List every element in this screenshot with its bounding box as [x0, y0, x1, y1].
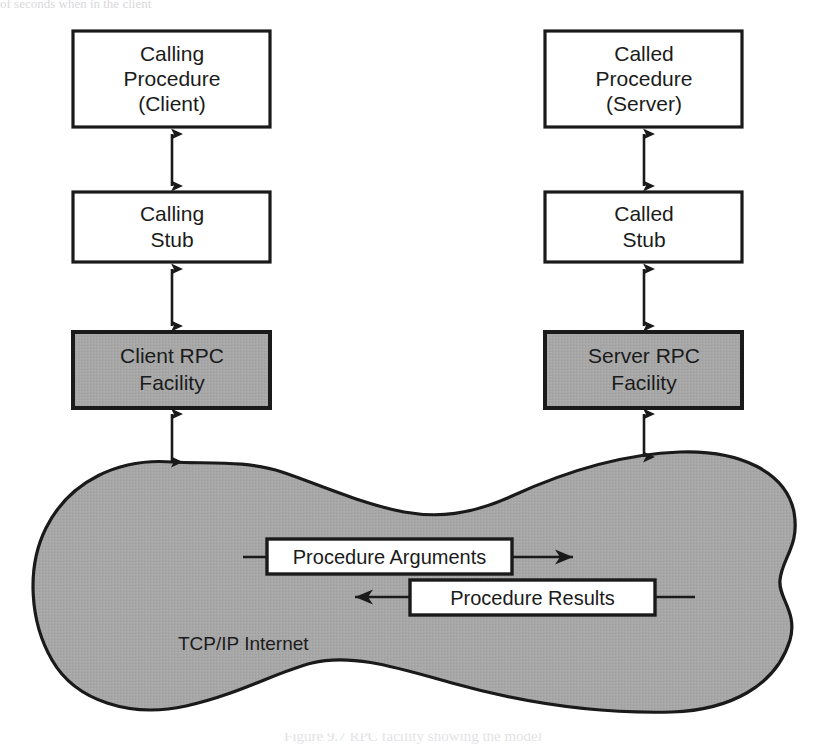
box-label-line: Stub	[150, 228, 193, 251]
message-label: Procedure Results	[450, 587, 615, 609]
box-calling-procedure[interactable]: Calling Procedure (Client)	[73, 31, 270, 127]
box-label-line: Client RPC	[120, 344, 224, 367]
box-label-line: (Client)	[138, 92, 206, 115]
box-label-line: Procedure	[124, 67, 221, 90]
box-label-line: Calling	[140, 202, 204, 225]
box-calling-stub[interactable]: Calling Stub	[73, 192, 270, 262]
box-label-line: Calling	[140, 42, 204, 65]
box-called-stub[interactable]: Called Stub	[545, 192, 742, 262]
server-column: Called Procedure (Server) Called Stub Se…	[545, 31, 742, 457]
box-label-line: Stub	[622, 228, 665, 251]
network-label: TCP/IP Internet	[178, 633, 309, 654]
box-server-rpc-facility[interactable]: Server RPC Facility	[545, 332, 742, 408]
box-called-procedure[interactable]: Called Procedure (Server)	[545, 31, 742, 127]
rpc-diagram: TCP/IP Internet Calling Procedure (Clien…	[0, 0, 826, 751]
box-label-line: Procedure	[596, 67, 693, 90]
box-label-line: Called	[614, 202, 674, 225]
box-label-line: Facility	[139, 371, 205, 394]
figure-page: of seconds when in the client TCP/IP Int…	[0, 0, 826, 751]
client-column: Calling Procedure (Client) Calling Stub …	[73, 31, 270, 462]
box-label-line: Called	[614, 42, 674, 65]
box-client-rpc-facility[interactable]: Client RPC Facility	[73, 332, 270, 408]
box-label-line: (Server)	[606, 92, 682, 115]
box-label-line: Server RPC	[588, 344, 700, 367]
figure-caption: Figure 9.7 RPC facility showing the mode…	[0, 733, 826, 745]
message-label: Procedure Arguments	[293, 546, 486, 568]
box-label-line: Facility	[611, 371, 677, 394]
figure-caption-clip: Figure 9.7 RPC facility showing the mode…	[0, 733, 826, 751]
